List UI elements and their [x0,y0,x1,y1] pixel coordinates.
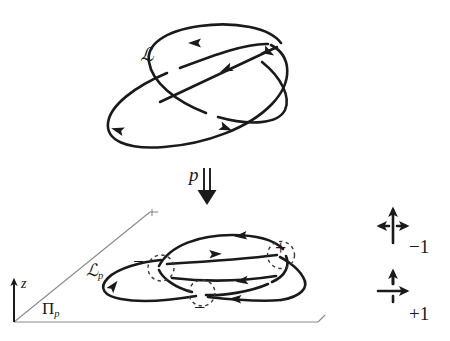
crossing-sign-left: − [133,251,144,271]
link-component-front [149,24,287,122]
z-axis-label: z [21,277,26,291]
crossing-sign-right: + [275,238,286,258]
link-component-back [108,44,287,148]
projection-arrow [198,168,217,205]
legend-negative-value: −1 [409,237,429,256]
figure-canvas [0,0,450,341]
legend-positive-crossing-icon [378,272,406,302]
crossing-sign-bottom: − [194,297,205,317]
link-diagram-label: ℒp [86,262,103,281]
plane-label-base: Π [42,299,54,318]
projection-plane [14,209,325,322]
link-diagram-label-subscript: p [98,270,103,281]
plane-label: Πp [42,300,60,319]
legend-negative-crossing-icon [380,210,406,243]
upper-link-group [108,24,287,147]
projection-map-label: p [189,165,199,184]
plane-label-subscript: p [54,308,59,319]
link-diagram-label-base: ℒ [86,261,98,280]
diagram-component-inner [167,255,277,280]
legend-positive-value: +1 [409,304,429,323]
spatial-link-label: ℒ [140,45,154,64]
diagram-component-upper [159,235,287,295]
